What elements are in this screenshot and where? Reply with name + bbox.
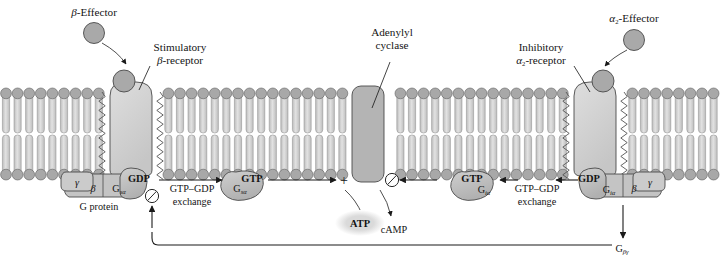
beta-effector-label: β-Effector — [70, 6, 117, 18]
inhibitory-alpha2-receptor — [574, 82, 616, 176]
exchange-right-line1: GTP–GDP — [515, 183, 560, 194]
alpha2-effector-binding-arrow — [605, 50, 627, 66]
g-beta-gamma-label: Gβγ — [615, 243, 629, 255]
g-protein-caption: G protein — [80, 201, 119, 212]
stimulatory-beta-receptor — [110, 82, 152, 176]
camp-product-arrow — [380, 190, 391, 216]
exchange-left-line1: GTP–GDP — [170, 183, 215, 194]
alpha2-effector-ligand — [624, 30, 645, 51]
left-gdp-label: GDP — [128, 173, 151, 184]
diagram-canvas: β-Effector Stimulatory β-receptor Adenyl… — [0, 0, 725, 271]
activation-plus-sign: + — [340, 173, 348, 188]
stimulatory-receptor-label-line2: β-receptor — [156, 54, 203, 66]
beta-effector-binding-arrow — [102, 43, 126, 64]
right-gtp-label: GTP — [461, 173, 483, 184]
left-beta-label: β — [89, 183, 96, 194]
inhibition-symbol-right — [385, 173, 398, 186]
exchange-left-line2: exchange — [173, 196, 212, 207]
adenylyl-cyclase-label-line1: Adenylyl — [371, 26, 413, 38]
exchange-right-line2: exchange — [518, 196, 557, 207]
inhibition-symbol-left — [145, 189, 158, 202]
beta-effector-bound — [113, 70, 135, 92]
alpha2-effector-label: α2-Effector — [609, 12, 659, 25]
camp-label: cAMP — [381, 224, 408, 235]
right-beta-label: β — [630, 183, 637, 194]
alpha2-effector-bound — [592, 70, 614, 92]
atp-label: ATP — [350, 218, 371, 229]
signaling-diagram: β-Effector Stimulatory β-receptor Adenyl… — [0, 0, 725, 271]
left-gtp-label: GTP — [241, 173, 263, 184]
stimulatory-receptor-label-line1: Stimulatory — [154, 41, 207, 53]
beta-effector-ligand — [84, 23, 105, 44]
adenylyl-cyclase-label-line2: cyclase — [376, 39, 409, 51]
inhibitory-receptor-label-line2: α2-receptor — [516, 54, 566, 67]
adenylyl-cyclase — [352, 86, 384, 182]
right-gdp-label: GDP — [578, 173, 601, 184]
inhibitory-receptor-label-line1: Inhibitory — [519, 41, 564, 53]
